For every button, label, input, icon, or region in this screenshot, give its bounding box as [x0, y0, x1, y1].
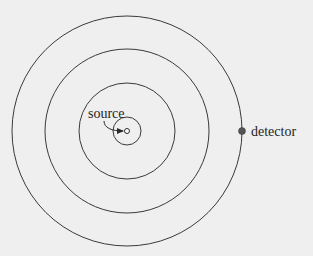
wave-diagram: source detector [0, 0, 313, 256]
detector-marker-icon [239, 128, 246, 135]
detector-label: detector [251, 124, 296, 139]
source-marker-icon [125, 129, 130, 134]
source-label: source [88, 106, 125, 121]
